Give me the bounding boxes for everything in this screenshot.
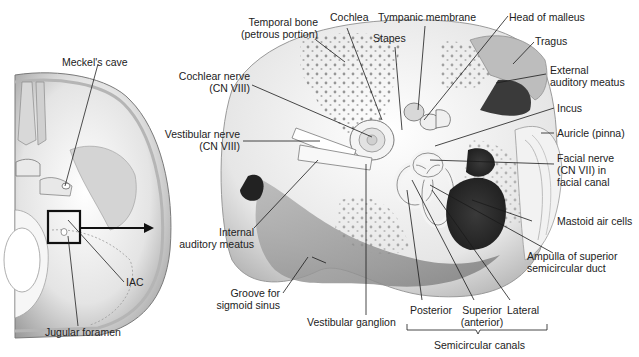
temporal-bone-drawing [221,20,562,297]
label-external-auditory-meatus: External auditory meatus [550,64,625,88]
label-vestibular-ganglion: Vestibular ganglion [307,316,396,328]
label-line: Superior [460,304,504,316]
label-line: Facial nerve [557,152,614,164]
skull-base-drawing [4,64,171,338]
label-lateral: Lateral [507,304,539,316]
label-line: Vestibular nerve [148,128,240,140]
label-semicircular-canals: Semicircular canals [434,339,525,351]
label-cochlea: Cochlea [330,11,369,23]
label-vestibular-nerve: Vestibular nerve (CN VIII) [148,128,240,152]
label-tragus: Tragus [535,35,567,47]
label-line: Internal [168,226,254,238]
label-superior-anterior: Superior (anterior) [460,304,504,328]
label-facial-nerve: Facial nerve (CN VII) in facial canal [557,152,614,188]
label-mastoid-air-cells: Mastoid air cells [557,215,632,227]
label-line: (CN VIII) [148,140,240,152]
label-line: auditory meatus [168,238,254,250]
label-cochlear-nerve: Cochlear nerve (CN VIII) [160,70,250,94]
label-auricle: Auricle (pinna) [557,127,625,139]
label-jugular-foramen: Jugular foramen [45,326,121,338]
label-line: semicircular duct [527,262,617,274]
label-head-of-malleus: Head of malleus [509,11,585,23]
label-ampulla-superior: Ampulla of superior semicircular duct [527,250,617,274]
label-line: Ampulla of superior [527,250,617,262]
label-line: (CN VIII) [160,82,250,94]
label-line: External [550,64,625,76]
label-line: sigmoid sinus [210,299,280,311]
label-groove-sigmoid-sinus: Groove for sigmoid sinus [210,287,280,311]
anatomy-illustration [0,0,639,357]
label-internal-auditory-meatus: Internal auditory meatus [168,226,254,250]
label-line: (petrous portion) [222,28,318,40]
label-line: (CN VII) in [557,164,614,176]
label-temporal-bone: Temporal bone (petrous portion) [222,16,318,40]
label-line: facial canal [557,176,614,188]
label-line: Groove for [210,287,280,299]
label-posterior: Posterior [410,304,452,316]
label-iac: IAC [126,276,144,288]
label-meckels-cave: Meckel's cave [62,56,128,68]
label-stapes: Stapes [373,32,406,44]
label-line: Cochlear nerve [160,70,250,82]
label-line: Temporal bone [222,16,318,28]
anatomy-figure: Meckel's cave IAC Jugular foramen Tempor… [0,0,639,357]
label-line: auditory meatus [550,76,625,88]
label-incus: Incus [557,102,582,114]
label-tympanic-membrane: Tympanic membrane [378,11,476,23]
label-line: (anterior) [460,316,504,328]
